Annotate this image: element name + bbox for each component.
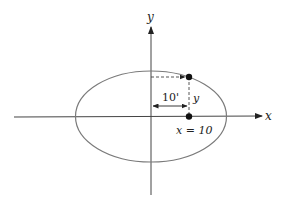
horizontal-distance-label: 10' [162,91,179,104]
vertical-distance-label: y [192,92,200,105]
point-label: x = 10 [176,124,212,137]
point-on-x-axis [186,113,192,119]
x-axis [14,116,262,117]
x-axis-label: x [265,109,272,123]
point-on-ellipse [186,74,192,80]
ellipse-diagram: y x 10' y x = 10 [0,0,282,203]
y-axis-label: y [146,10,154,24]
